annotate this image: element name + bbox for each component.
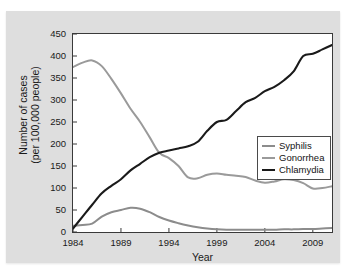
y-axis-label-line1: Number of cases bbox=[17, 75, 29, 154]
x-tick-2004: 2004 bbox=[245, 237, 285, 248]
legend-label-gonorrhea: Gonorrhea bbox=[279, 152, 324, 164]
x-tick-1989: 1989 bbox=[101, 237, 141, 248]
x-tick-2009: 2009 bbox=[293, 237, 333, 248]
y-tick-450: 450 bbox=[32, 29, 66, 39]
line-chart-svg bbox=[73, 34, 332, 232]
y-axis-label-line2: (per 100,000 people) bbox=[29, 40, 41, 190]
legend-item-chlamydia: Chlamydia bbox=[262, 164, 324, 176]
x-tick-1999: 1999 bbox=[197, 237, 237, 248]
y-axis-label: Number of cases (per 100,000 people) bbox=[17, 40, 41, 190]
legend-swatch-gonorrhea bbox=[262, 157, 275, 159]
legend-swatch-syphilis bbox=[262, 145, 275, 147]
legend-label-chlamydia: Chlamydia bbox=[279, 164, 324, 176]
x-tick-1994: 1994 bbox=[149, 237, 189, 248]
y-tick-50: 50 bbox=[32, 205, 66, 215]
y-tick-0: 0 bbox=[32, 227, 66, 237]
x-axis-tick-labels: 198419891994199920042009 bbox=[72, 237, 333, 251]
x-axis-label: Year bbox=[72, 251, 333, 263]
legend-item-syphilis: Syphilis bbox=[262, 140, 324, 152]
cropped-caption-sliver bbox=[0, 0, 346, 9]
plot-area: Syphilis Gonorrhea Chlamydia bbox=[72, 33, 333, 233]
x-tick-1984: 1984 bbox=[53, 237, 93, 248]
chart-legend: Syphilis Gonorrhea Chlamydia bbox=[257, 136, 331, 180]
legend-item-gonorrhea: Gonorrhea bbox=[262, 152, 324, 164]
figure-container: 450400350300250200150100500 Syphilis Gon… bbox=[0, 0, 346, 274]
legend-swatch-chlamydia bbox=[262, 169, 275, 171]
legend-label-syphilis: Syphilis bbox=[279, 140, 312, 152]
chart-panel: 450400350300250200150100500 Syphilis Gon… bbox=[6, 11, 340, 263]
